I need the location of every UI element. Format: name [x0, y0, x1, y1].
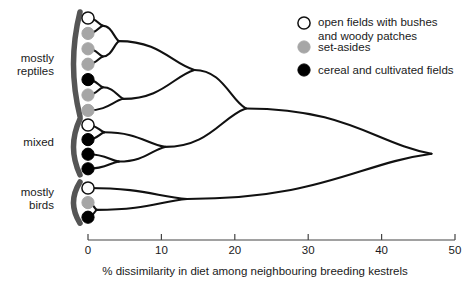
- leaf-marker-grey-circle: [82, 197, 94, 209]
- leaf-marker-black-circle: [82, 211, 94, 223]
- dendrogram-link: [103, 26, 119, 41]
- leaf-markers-layer: [82, 12, 94, 223]
- group-bracket: [74, 12, 81, 116]
- dendrogram-link: [123, 70, 194, 99]
- leaf-marker-grey-circle: [82, 58, 94, 70]
- leaf-marker-grey-circle: [82, 43, 94, 55]
- legend-label-open-fields: open fields with bushes and woody patche…: [318, 16, 468, 43]
- group-label-mostly-birds: mostly birds: [2, 186, 54, 212]
- dendrogram-link: [187, 154, 431, 199]
- dendrogram-link: [103, 87, 124, 99]
- legend-marker-black-circle: [298, 64, 310, 76]
- leaf-marker-grey-circle: [82, 89, 94, 101]
- dendrogram-link: [194, 70, 245, 108]
- x-axis-tick-label: 10: [146, 244, 176, 256]
- group-brackets-layer: [74, 12, 81, 223]
- leaf-marker-grey-circle: [82, 104, 94, 116]
- legend-label-cereal-fields: cereal and cultivated fields: [318, 64, 473, 78]
- x-axis-layer: [88, 234, 455, 240]
- legend-markers-layer: [298, 17, 310, 76]
- x-axis-tick-label: 20: [220, 244, 250, 256]
- group-label-mixed: mixed: [2, 136, 54, 149]
- legend-marker-grey-circle: [298, 41, 310, 53]
- dendrogram-link: [104, 132, 165, 147]
- x-axis-tick-label: 0: [73, 244, 103, 256]
- dendrogram-link: [165, 108, 246, 146]
- group-bracket: [74, 119, 81, 175]
- dendrogram-figure: mostly reptiles mixed mostly birds open …: [0, 0, 473, 287]
- x-axis-title: % dissimilarity in diet among neighbouri…: [55, 265, 455, 277]
- group-bracket: [74, 182, 81, 223]
- legend-marker-open-circle: [298, 17, 310, 29]
- leaf-marker-grey-circle: [82, 27, 94, 39]
- leaf-marker-black-circle: [82, 163, 94, 175]
- dendrogram-link: [103, 41, 119, 56]
- legend-label-set-asides: set-asides: [318, 41, 468, 55]
- dendrogram-link: [246, 108, 432, 153]
- x-axis-tick-label: 40: [367, 244, 397, 256]
- leaf-marker-black-circle: [82, 74, 94, 86]
- leaf-marker-black-circle: [82, 148, 94, 160]
- dendrogram-link: [97, 199, 187, 210]
- dendrogram-link: [119, 41, 195, 70]
- leaf-marker-black-circle: [82, 134, 94, 146]
- leaf-marker-open-circle: [82, 182, 94, 194]
- x-axis-tick-label: 50: [440, 244, 470, 256]
- x-axis-tick-label: 30: [293, 244, 323, 256]
- dendrogram-link: [119, 147, 165, 162]
- group-label-mostly-reptiles: mostly reptiles: [2, 52, 54, 78]
- leaf-marker-open-circle: [82, 12, 94, 24]
- leaf-marker-open-circle: [82, 119, 94, 131]
- dendrogram-link: [88, 188, 187, 199]
